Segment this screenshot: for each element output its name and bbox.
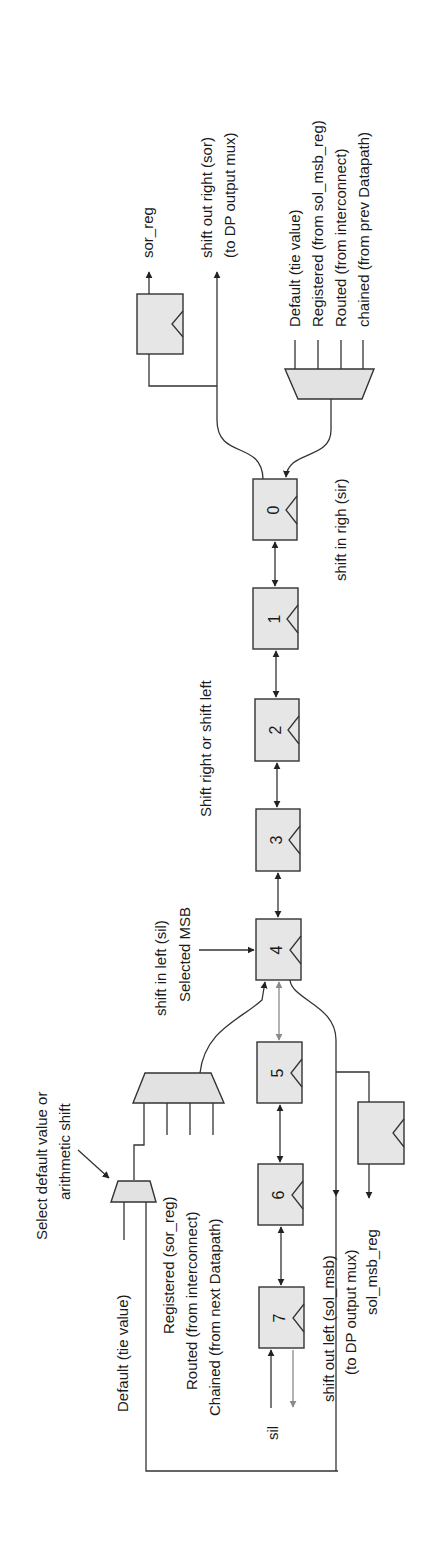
select-default-pointer-arrow — [78, 1150, 109, 1178]
register-3: 3 — [256, 809, 300, 871]
sil-short-label: sil — [264, 1426, 281, 1440]
register-0: 0 — [253, 479, 297, 540]
selected-msb-label: Selected MSB — [176, 907, 193, 1002]
svg-text:0: 0 — [265, 505, 282, 514]
register-4: 4 — [256, 919, 301, 980]
sor-label-line1: shift out right (sor) — [198, 137, 215, 258]
right-mux-input-registered: Registered (from sol_msb_reg) — [309, 120, 326, 327]
register-5: 5 — [257, 1042, 302, 1103]
sil-mux-output-arrow — [200, 982, 265, 1073]
left-mux-select-wire — [134, 1103, 144, 1180]
right-mux-input-chained: chained (from prev Datapath) — [355, 132, 372, 327]
svg-text:2: 2 — [267, 725, 284, 734]
svg-text:5: 5 — [269, 1068, 286, 1077]
left-default-label: Default (tie value) — [114, 1294, 131, 1412]
sol-label-line2: (to DP output mux) — [342, 1249, 359, 1375]
sir-arrow — [286, 399, 331, 477]
left-input-mux — [133, 1073, 224, 1103]
sol-msb-reg-label: sol_msb_reg — [363, 1229, 380, 1315]
select-default-label-line2: arithmetic shift — [56, 1102, 73, 1200]
right-mux-input-routed: Routed (from interconnect) — [332, 149, 349, 327]
register-2: 2 — [255, 699, 299, 761]
sor-from-reg0-wire — [217, 386, 263, 479]
left-mux-input-registered: Registered (sor_reg) — [160, 1196, 177, 1334]
select-default-label-line1: Select default value or — [33, 1092, 50, 1240]
sor-reg-label: sor_reg — [139, 207, 156, 258]
svg-text:7: 7 — [271, 1313, 288, 1322]
sil-label: shift in left (sil) — [152, 920, 169, 1016]
shift-register-diagram: sor_reg shift out right (sor) (to DP out… — [0, 0, 429, 1546]
sor-reg-register — [137, 294, 183, 354]
sol-msb-reg-register — [358, 1102, 404, 1164]
register-7: 7 — [259, 1287, 304, 1348]
svg-text:1: 1 — [266, 614, 283, 623]
right-input-mux — [285, 369, 374, 399]
sol-msb-reg-feed-wire — [336, 1072, 369, 1102]
svg-text:4: 4 — [268, 945, 285, 954]
register-6: 6 — [258, 1164, 303, 1225]
sir-label: shift in righ (sir) — [332, 478, 349, 581]
svg-text:6: 6 — [270, 1190, 287, 1199]
register-1: 1 — [253, 588, 298, 649]
sor-reg-feed-wire — [149, 354, 217, 386]
sol-label-line1: shift out left (sol_msb) — [320, 1255, 337, 1402]
arith-select-mux — [111, 1181, 156, 1202]
shift-direction-label: Shift right or shift left — [197, 679, 214, 817]
svg-text:3: 3 — [268, 835, 285, 844]
right-mux-input-default: Default (tie value) — [286, 209, 303, 327]
left-mux-input-chained: Chained (from next Datapath) — [206, 1218, 223, 1416]
sor-label-line2: (to DP output mux) — [221, 132, 238, 258]
left-mux-input-routed: Routed (from interconnect) — [183, 1212, 200, 1390]
